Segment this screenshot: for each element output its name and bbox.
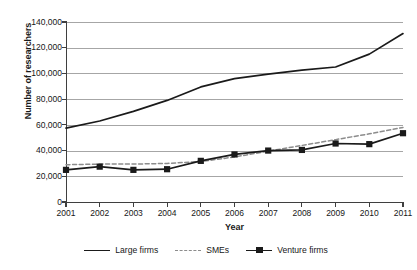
legend-item-venture-firms[interactable]: Venture firms — [246, 245, 328, 255]
data-point-marker — [198, 158, 204, 164]
legend-label: Venture firms — [277, 245, 328, 255]
chart-legend: Large firmsSMEsVenture firms — [0, 245, 412, 255]
data-point-marker — [366, 141, 372, 147]
legend-item-smes[interactable]: SMEs — [175, 245, 229, 255]
data-point-marker — [63, 167, 69, 173]
legend-swatch-icon — [246, 246, 272, 255]
legend-swatch-icon — [84, 246, 110, 255]
legend-label: SMEs — [206, 245, 229, 255]
data-point-marker — [130, 167, 136, 173]
series-line-smes — [66, 127, 403, 164]
data-point-marker — [97, 164, 103, 170]
legend-swatch-icon — [175, 246, 201, 255]
data-point-marker — [299, 147, 305, 153]
legend-label: Large firms — [115, 245, 158, 255]
data-point-marker — [333, 140, 339, 146]
data-point-marker — [231, 151, 237, 157]
data-point-marker — [265, 147, 271, 153]
data-point-marker — [400, 130, 406, 136]
data-point-marker — [164, 166, 170, 172]
series-line-large-firms — [66, 34, 403, 129]
x-axis-title: Year — [66, 222, 403, 232]
legend-item-large-firms[interactable]: Large firms — [84, 245, 158, 255]
